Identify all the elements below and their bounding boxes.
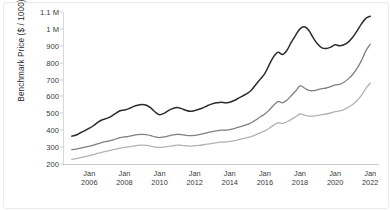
x-tick-year: 2016 xyxy=(257,178,273,187)
y-tick-label: 200 xyxy=(46,160,59,169)
x-tick-label: Jan2018 xyxy=(292,169,308,187)
x-tick-year: 2012 xyxy=(186,178,202,187)
x-tick-year: 2018 xyxy=(292,178,308,187)
x-tick-month: Jan xyxy=(292,169,308,178)
x-tick-month: Jan xyxy=(151,169,167,178)
line-series_middle xyxy=(72,44,370,150)
x-axis-line xyxy=(63,164,379,165)
series-lines xyxy=(63,12,379,164)
x-tick-month: Jan xyxy=(116,169,132,178)
line-series_top xyxy=(72,16,370,136)
y-tick-label: 1.1 M xyxy=(40,8,59,17)
x-tick-label: Jan2016 xyxy=(257,169,273,187)
y-tick-label: 400 xyxy=(46,126,59,135)
plot-area: 1.1 M1 M900800700600500400300200 Jan2006… xyxy=(63,12,379,164)
x-tick-label: Jan2014 xyxy=(222,169,238,187)
y-tick-label: 1 M xyxy=(46,24,59,33)
x-tick-year: 2014 xyxy=(222,178,238,187)
x-tick-label: Jan2020 xyxy=(327,169,343,187)
x-tick-month: Jan xyxy=(81,169,97,178)
x-tick-month: Jan xyxy=(327,169,343,178)
y-tick-label: 900 xyxy=(46,41,59,50)
x-tick-label: Jan2010 xyxy=(151,169,167,187)
chart-figure: Benchmark Price ($ / 1000) 1.1 M1 M90080… xyxy=(0,0,390,210)
x-tick-month: Jan xyxy=(222,169,238,178)
x-tick-label: Jan2012 xyxy=(186,169,202,187)
y-tick-label: 300 xyxy=(46,143,59,152)
x-tick-month: Jan xyxy=(186,169,202,178)
y-tick-label: 700 xyxy=(46,75,59,84)
y-tick-label: 500 xyxy=(46,109,59,118)
x-tick-label: Jan2008 xyxy=(116,169,132,187)
x-tick-label: Jan2022 xyxy=(362,169,378,187)
line-series_bottom xyxy=(72,83,370,159)
y-tick-label: 800 xyxy=(46,58,59,67)
x-tick-year: 2022 xyxy=(362,178,378,187)
x-tick-year: 2008 xyxy=(116,178,132,187)
x-tick-label: Jan2006 xyxy=(81,169,97,187)
x-tick-month: Jan xyxy=(257,169,273,178)
x-tick-month: Jan xyxy=(362,169,378,178)
x-tick-year: 2006 xyxy=(81,178,97,187)
y-axis-title: Benchmark Price ($ / 1000) xyxy=(17,0,26,116)
x-tick-year: 2010 xyxy=(151,178,167,187)
y-tick-label: 600 xyxy=(46,92,59,101)
x-tick-year: 2020 xyxy=(327,178,343,187)
